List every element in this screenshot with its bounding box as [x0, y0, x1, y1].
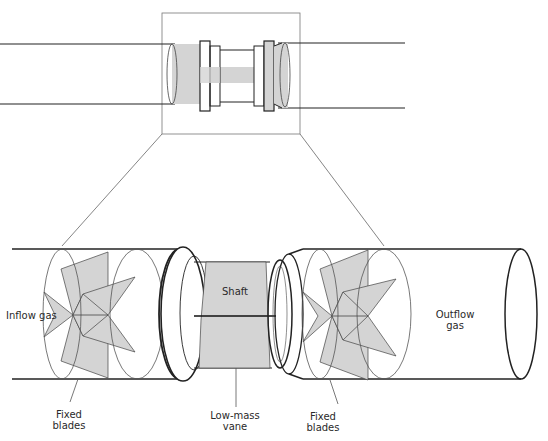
label-fixed-blades-left: Fixed blades: [44, 409, 94, 431]
leader-fixed-left: [70, 379, 78, 402]
flowmeter-diagram: [0, 0, 548, 441]
label-shaft: Shaft: [215, 286, 255, 297]
label-fixed-blades-right: Fixed blades: [298, 411, 348, 433]
zoom-line-left: [62, 134, 162, 246]
label-inflow-gas: Inflow gas: [6, 310, 76, 321]
vane-section: [161, 247, 303, 407]
leader-fixed-right: [330, 380, 338, 404]
label-low-mass-vane: Low-mass vane: [200, 410, 270, 432]
fixed-blades-right: [303, 250, 396, 380]
zoom-line-right: [300, 134, 384, 246]
overview-inset: [0, 13, 405, 134]
outflow-pipe: [289, 249, 537, 380]
label-outflow-gas: Outflow gas: [425, 309, 485, 331]
low-mass-vane: [199, 262, 270, 368]
